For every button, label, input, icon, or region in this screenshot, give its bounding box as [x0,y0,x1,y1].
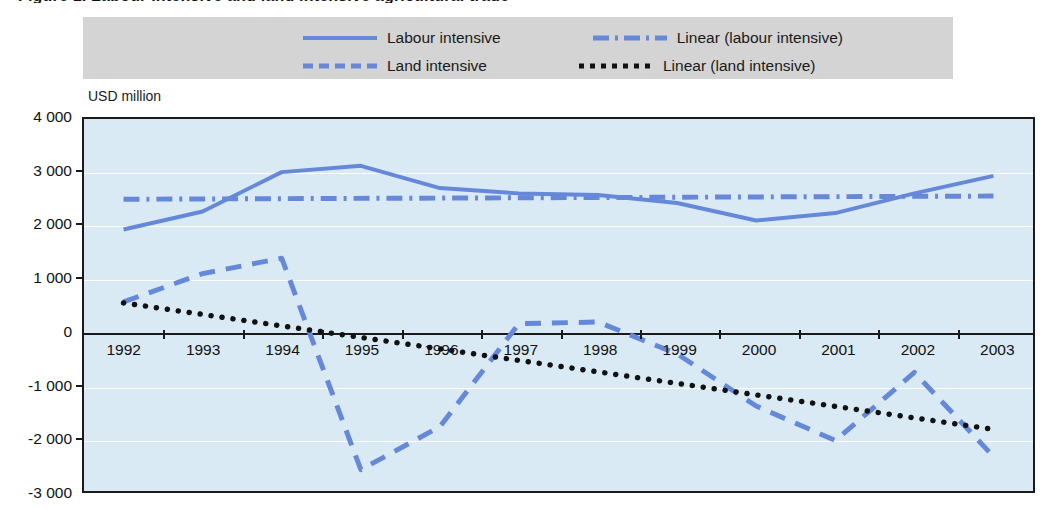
figure-title: Figure 1. Labour intensive and land inte… [18,0,509,3]
legend-swatch-dashdot-icon [593,31,667,45]
y-axis-tick-label: -2 000 [2,430,72,448]
legend-label-labour-intensive: Labour intensive [387,29,501,47]
y-axis-tick-label: -1 000 [2,377,72,395]
series-line-land-intensive [124,258,994,470]
x-axis-tick-label: 1993 [186,341,220,359]
x-axis-tick-label: 2001 [821,341,855,359]
x-axis-tick-mark [799,330,801,339]
legend-label-linear-labour-intensive: Linear (labour intensive) [677,29,843,47]
x-axis-tick-mark [640,330,642,339]
legend-label-land-intensive: Land intensive [387,57,487,75]
legend-swatch-dash-icon [303,59,377,73]
legend-row-1: Labour intensive Linear (labour intensiv… [303,25,843,51]
y-axis-tick-label: 2 000 [2,215,72,233]
y-axis-tick-label: 0 [2,323,72,341]
x-axis-tick-mark [163,330,165,339]
legend-item-linear-labour-intensive: Linear (labour intensive) [593,25,843,51]
x-axis-tick-mark [243,330,245,339]
y-axis-tick-label: 3 000 [2,162,72,180]
x-axis-tick-mark [958,330,960,339]
x-axis-tick-mark [322,330,324,339]
legend-label-linear-land-intensive: Linear (land intensive) [663,57,816,75]
x-axis-tick-mark [719,330,721,339]
x-axis-tick-label: 2000 [742,341,776,359]
x-axis-tick-label: 1994 [265,341,299,359]
x-axis-tick-label: 1995 [345,341,379,359]
x-axis-tick-mark [878,330,880,339]
chart-figure: Figure 1. Labour intensive and land inte… [0,0,1047,512]
x-axis-tick-label: 1997 [504,341,538,359]
x-axis-tick-label: 2003 [980,341,1014,359]
x-axis-tick-mark [481,330,483,339]
x-axis-tick-label: 1998 [583,341,617,359]
legend-item-labour-intensive: Labour intensive [303,25,501,51]
x-axis-tick-label: 1996 [424,341,458,359]
y-axis-unit-label: USD million [88,88,161,104]
legend-row-2: Land intensive Linear (land intensive) [303,53,815,79]
legend-item-linear-land-intensive: Linear (land intensive) [579,53,816,79]
y-axis-tick-label: -3 000 [2,484,72,502]
plot-inner: 1992199319941995199619971998199920002001… [84,119,1033,491]
x-axis-tick-label: 1999 [662,341,696,359]
legend-item-land-intensive: Land intensive [303,53,487,79]
x-axis-tick-mark [561,330,563,339]
y-axis-tick-label: 1 000 [2,269,72,287]
y-axis-tick-label: 4 000 [2,108,72,126]
series-line-linear-labour-intensive [124,196,994,199]
x-axis-tick-mark [402,330,404,339]
legend-swatch-solid-icon [303,31,377,45]
x-axis-tick-label: 2002 [901,341,935,359]
chart-legend: Labour intensive Linear (labour intensiv… [83,17,953,79]
x-axis-tick-label: 1992 [106,341,140,359]
plot-area: 1992199319941995199619971998199920002001… [82,117,1035,493]
series-lines [84,119,1033,491]
legend-swatch-dotted-icon [579,59,653,73]
